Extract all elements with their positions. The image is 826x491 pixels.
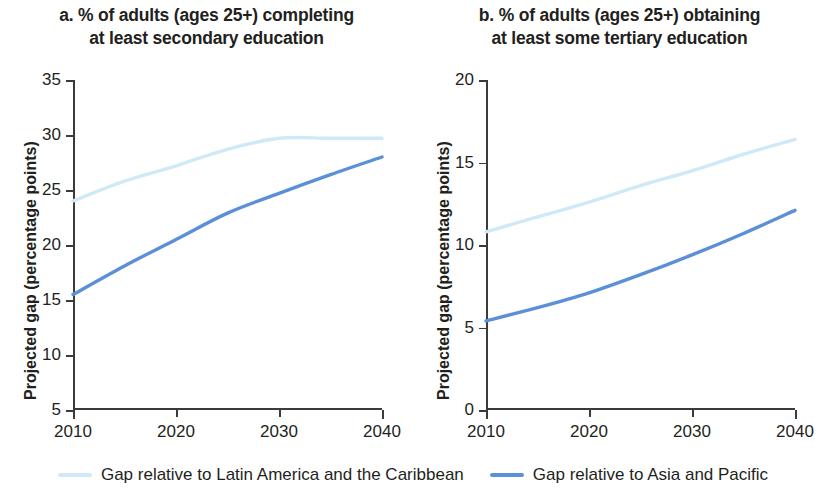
panel-b-x-tick-label: 2010 [467, 422, 505, 442]
panel-b-y-tick [479, 410, 486, 412]
legend-item-asia-pacific: Gap relative to Asia and Pacific [490, 465, 768, 485]
panel-b-y-tick-label: 5 [465, 318, 474, 338]
panel-a-series-svg [73, 80, 382, 410]
panel-b-y-tick [479, 163, 486, 165]
panel-a-y-tick [66, 245, 73, 247]
data-line-gap-relative-to-asia-and-pacific [73, 157, 382, 295]
data-line-gap-relative-to-asia-and-pacific [486, 210, 795, 321]
panel-b-x-tick [692, 410, 694, 417]
panel-a-x-tick-label: 2020 [157, 422, 195, 442]
panel-b-x-tick-label: 2030 [673, 422, 711, 442]
panel-a-y-tick [66, 80, 73, 82]
panel-b-title: b. % of adults (ages 25+) obtaining at l… [413, 4, 826, 50]
panel-b-y-axis-label: Projected gap (percentage points) [435, 141, 453, 400]
data-line-gap-relative-to-latin-america-and-the-caribbean [73, 137, 382, 201]
panel-a-y-tick [66, 355, 73, 357]
panel-a-y-tick [66, 300, 73, 302]
panel-b-x-tick-label: 2040 [776, 422, 814, 442]
panel-b-x-tick [486, 410, 488, 419]
data-line-gap-relative-to-latin-america-and-the-caribbean [486, 139, 795, 231]
panel-a-y-tick-label: 20 [42, 235, 61, 255]
panel-a-x-tick [73, 410, 75, 419]
panel-a-x-tick [176, 410, 178, 417]
legend: Gap relative to Latin America and the Ca… [0, 465, 826, 485]
legend-label-latin-america: Gap relative to Latin America and the Ca… [101, 465, 464, 485]
panel-b-y-tick [479, 328, 486, 330]
panel-b-y-tick-label: 20 [455, 70, 474, 90]
panel-a: a. % of adults (ages 25+) completing at … [0, 0, 413, 455]
panels-row: a. % of adults (ages 25+) completing at … [0, 0, 826, 455]
panel-a-y-tick [66, 190, 73, 192]
legend-swatch-line-icon [490, 473, 524, 477]
panel-a-y-tick [66, 135, 73, 137]
panel-a-y-tick-label: 35 [42, 70, 61, 90]
panel-b-y-tick-label: 0 [465, 400, 474, 420]
panel-a-title: a. % of adults (ages 25+) completing at … [0, 4, 413, 50]
panel-b-series-svg [486, 80, 795, 410]
legend-swatch-line-icon [58, 473, 92, 477]
panel-a-x-tick-label: 2030 [260, 422, 298, 442]
panel-a-y-axis-label: Projected gap (percentage points) [22, 141, 40, 400]
panel-b-y-tick-label: 10 [455, 235, 474, 255]
panel-a-y-tick [66, 410, 73, 412]
panel-b-x-tick [589, 410, 591, 417]
panel-b: b. % of adults (ages 25+) obtaining at l… [413, 0, 826, 455]
panel-a-x-tick-label: 2010 [54, 422, 92, 442]
figure: a. % of adults (ages 25+) completing at … [0, 0, 826, 491]
panel-b-plot-area: 051015202010202020302040 [486, 80, 795, 410]
panel-a-y-tick-label: 30 [42, 125, 61, 145]
panel-a-y-tick-label: 5 [52, 400, 61, 420]
panel-b-x-tick-label: 2020 [570, 422, 608, 442]
panel-a-y-tick-label: 15 [42, 290, 61, 310]
panel-b-y-tick-label: 15 [455, 153, 474, 173]
panel-a-plot-area: 51015202530352010202020302040 [73, 80, 382, 410]
panel-b-y-tick [479, 80, 486, 82]
panel-a-x-tick [382, 410, 384, 419]
panel-b-x-tick [795, 410, 797, 419]
legend-label-asia-pacific: Gap relative to Asia and Pacific [533, 465, 768, 485]
panel-a-x-tick [279, 410, 281, 417]
panel-a-y-tick-label: 10 [42, 345, 61, 365]
legend-item-latin-america: Gap relative to Latin America and the Ca… [58, 465, 464, 485]
panel-a-x-tick-label: 2040 [363, 422, 401, 442]
panel-a-y-tick-label: 25 [42, 180, 61, 200]
panel-b-y-tick [479, 245, 486, 247]
